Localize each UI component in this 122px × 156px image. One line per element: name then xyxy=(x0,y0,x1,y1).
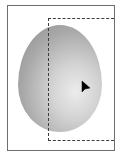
arrow-pointer-icon xyxy=(81,80,91,94)
